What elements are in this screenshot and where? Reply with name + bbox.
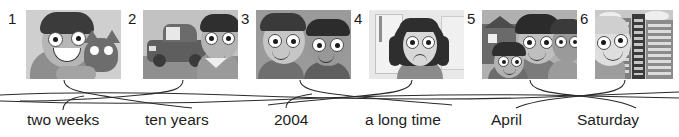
matching-exercise-sheet: 1 2 xyxy=(0,0,679,137)
connector-panel6-to-april[interactable] xyxy=(516,80,625,108)
label-ten-years[interactable]: ten years xyxy=(145,112,209,128)
label-a-long-time[interactable]: a long time xyxy=(365,112,441,128)
label-2004[interactable]: 2004 xyxy=(274,112,308,128)
label-two-weeks[interactable]: two weeks xyxy=(27,112,99,128)
connector-panel3-to-a-long-time[interactable] xyxy=(300,80,452,105)
connector-panel2-to-two-weeks[interactable] xyxy=(20,80,183,101)
label-saturday[interactable]: Saturday xyxy=(577,112,639,128)
label-april[interactable]: April xyxy=(491,112,522,128)
